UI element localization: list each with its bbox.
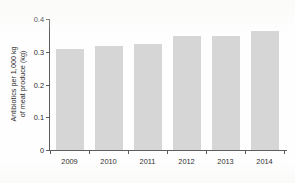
x-tick-mark-end [284, 150, 285, 154]
bar-2013 [212, 36, 240, 150]
x-tick-label-2011: 2011 [140, 157, 156, 166]
y-axis-title-text: Antibiotics per 1,000 kg of meat produce… [9, 16, 27, 152]
y-tick-mark-4 [46, 19, 49, 20]
x-tick-mark-4 [206, 150, 207, 154]
x-tick-mark-2 [128, 150, 129, 154]
y-tick-label-1: 0.1 [34, 113, 44, 122]
y-tick-label-2: 0.2 [34, 80, 44, 89]
x-tick-mark-1 [89, 150, 90, 154]
y-tick-label-4: 0.4 [34, 15, 44, 24]
y-axis-title: Antibiotics per 1,000 kg of meat produce… [6, 14, 30, 154]
x-tick-label-2010: 2010 [100, 157, 116, 166]
y-axis-line [49, 19, 50, 150]
x-tick-mark-3 [167, 150, 168, 154]
bar-chart-figure: Antibiotics per 1,000 kg of meat produce… [0, 0, 295, 183]
bar-2012 [173, 36, 201, 150]
bar-2014 [251, 31, 279, 150]
bar-2010 [95, 46, 123, 150]
x-tick-label-2012: 2012 [178, 157, 194, 166]
x-axis-line [49, 150, 287, 151]
x-tick-mark-5 [245, 150, 246, 154]
bar-2011 [134, 44, 162, 150]
y-tick-mark-3 [46, 52, 49, 53]
plot-area: 0 0.1 0.2 0.3 0.4 [49, 19, 284, 150]
x-tick-label-2013: 2013 [217, 157, 233, 166]
x-tick-mark-0 [50, 150, 51, 154]
y-tick-label-0: 0 [40, 146, 44, 155]
y-tick-label-3: 0.3 [34, 47, 44, 56]
x-tick-label-2009: 2009 [61, 157, 77, 166]
bar-2009 [56, 49, 84, 150]
x-tick-label-2014: 2014 [256, 157, 272, 166]
y-tick-mark-2 [46, 85, 49, 86]
y-axis-title-line-2: of meat produce (kg) [18, 51, 27, 118]
y-tick-mark-1 [46, 117, 49, 118]
y-axis-title-line-1: Antibiotics per 1,000 kg [9, 46, 18, 121]
